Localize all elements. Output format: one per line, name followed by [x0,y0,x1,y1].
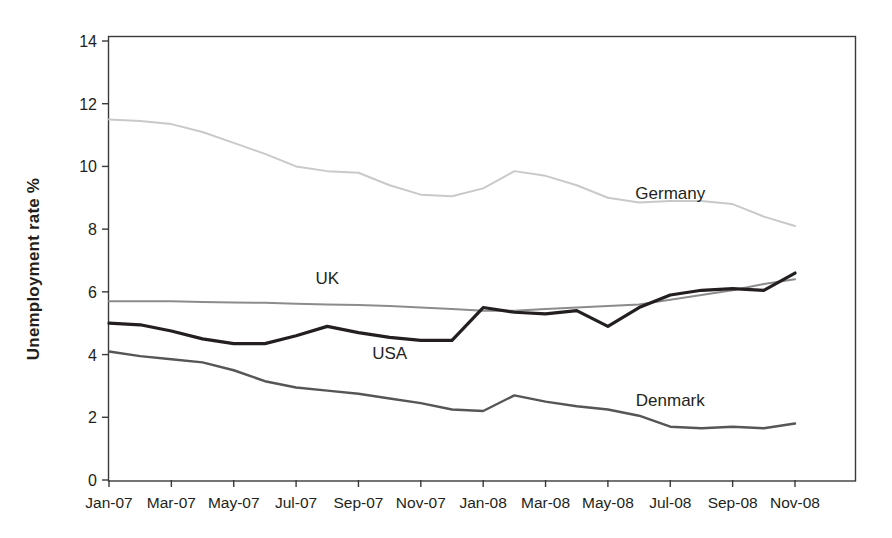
series-label-uk: UK [315,269,339,288]
y-axis-ticks: 02468101214 [79,33,109,489]
data-series-group [109,119,795,428]
series-label-usa: USA [372,344,408,363]
plot-border [109,37,856,482]
x-axis-ticks: Jan-07Mar-07May-07Jul-07Sep-07Nov-07Jan-… [85,480,820,511]
x-tick-label: Jul-07 [275,494,317,511]
unemployment-rate-line-chart: 02468101214 Jan-07Mar-07May-07Jul-07Sep-… [0,0,892,538]
series-label-denmark: Denmark [636,391,705,410]
y-tick-label: 2 [88,409,97,426]
y-tick-label: 6 [88,284,97,301]
y-tick-label: 12 [79,96,97,113]
x-tick-label: Jan-07 [85,494,132,511]
y-tick-label: 8 [88,221,97,238]
plot-frame [109,37,856,482]
chart-figure: Unemployment rate % 02468101214 Jan-07Ma… [0,0,892,538]
series-line-germany [109,119,795,226]
x-tick-label: Sep-08 [708,494,758,511]
x-tick-label: Jan-08 [459,494,506,511]
x-tick-label: Mar-08 [521,494,570,511]
series-line-denmark [109,351,795,428]
y-tick-label: 10 [79,158,97,175]
y-tick-label: 0 [88,472,97,489]
x-tick-label: May-08 [582,494,634,511]
x-tick-label: May-07 [208,494,260,511]
x-tick-label: Mar-07 [147,494,196,511]
x-tick-label: Jul-08 [649,494,691,511]
x-tick-label: Sep-07 [333,494,383,511]
y-tick-label: 14 [79,33,97,50]
series-labels-group: GermanyUKUSADenmark [315,184,705,410]
x-tick-label: Nov-07 [396,494,446,511]
y-tick-label: 4 [88,347,97,364]
series-label-germany: Germany [635,184,705,203]
x-tick-label: Nov-08 [770,494,820,511]
series-line-uk [109,279,795,310]
